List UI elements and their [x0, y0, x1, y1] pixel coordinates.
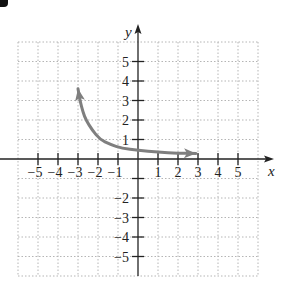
x-tick-label: 4 — [215, 165, 222, 180]
y-tick-label: 3 — [122, 94, 129, 109]
y-tick-label: −2 — [114, 191, 129, 206]
x-tick-label: 1 — [155, 165, 162, 180]
x-tick-label: −3 — [68, 165, 83, 180]
y-axis-label: y — [123, 24, 132, 40]
y-tick-label: −4 — [114, 230, 129, 245]
x-axis-label: x — [267, 163, 275, 179]
coordinate-plane: −5−4−3−2−112345−5−4−3−212345 x y — [0, 0, 289, 291]
y-tick-label: −5 — [114, 250, 129, 265]
x-tick-label: −4 — [48, 165, 63, 180]
x-tick-label: 2 — [175, 165, 182, 180]
y-tick-label: 4 — [122, 74, 129, 89]
x-tick-label: −2 — [88, 165, 103, 180]
y-tick-label: 1 — [122, 133, 129, 148]
x-tick-label: 3 — [195, 165, 202, 180]
y-tick-label: −3 — [114, 211, 129, 226]
x-tick-label: 5 — [235, 165, 242, 180]
y-tick-label: 2 — [122, 113, 129, 128]
x-tick-label: −5 — [28, 165, 43, 180]
x-tick-label: −1 — [108, 165, 123, 180]
y-tick-label: 5 — [122, 55, 129, 70]
